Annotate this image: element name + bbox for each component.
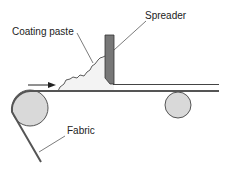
fabric-label: Fabric	[67, 126, 95, 136]
spreader-leader	[114, 21, 146, 50]
coating-paste-leader	[77, 33, 93, 63]
spreader-label: Spreader	[145, 11, 186, 21]
coating-paste-label: Coating paste	[12, 27, 74, 37]
direction-arrow-head	[48, 82, 56, 88]
spreader-blade	[105, 35, 114, 84]
coating-diagram: Coating paste Spreader Fabric	[0, 0, 230, 173]
right-roller	[165, 92, 191, 118]
fabric-leader	[39, 136, 65, 152]
